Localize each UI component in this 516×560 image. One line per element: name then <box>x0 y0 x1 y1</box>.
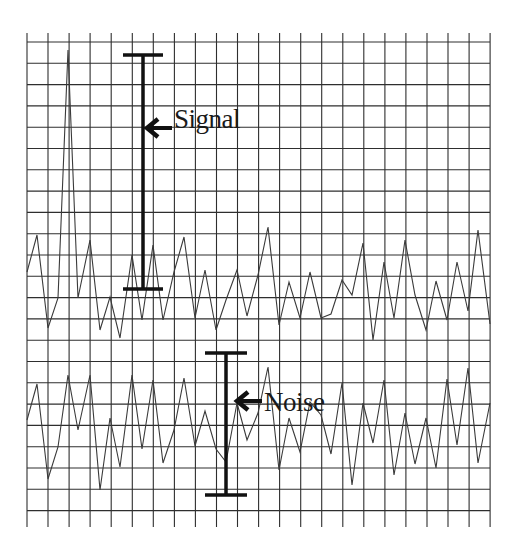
signal-arrow-icon <box>147 119 172 137</box>
signal-noise-diagram <box>0 0 516 560</box>
noise-height-bar <box>205 353 247 495</box>
noise-label: Noise <box>264 389 325 416</box>
signal-height-bar <box>123 55 163 289</box>
signal-label: Signal <box>174 106 240 133</box>
